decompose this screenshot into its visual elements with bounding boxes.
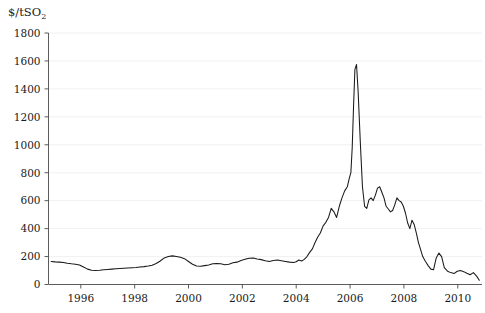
x-tick-label: 2006 — [337, 292, 364, 304]
y-tick-label: 600 — [20, 194, 40, 206]
y-axis-title-group: $/tSO2 — [8, 5, 46, 21]
y-tick-label: 0 — [34, 278, 41, 290]
y-tick-label: 1400 — [14, 83, 41, 95]
chart-canvas: $/tSO2 020040060080010001200140016001800… — [0, 0, 485, 313]
x-tick-labels: 19961998200020022004200620082010 — [67, 292, 471, 304]
y-axis-title-base: $/tSO — [8, 5, 41, 19]
y-tick-label: 200 — [20, 250, 40, 262]
y-tick-labels: 020040060080010001200140016001800 — [14, 27, 41, 291]
y-tick-label: 1600 — [14, 55, 41, 67]
x-tick-label: 2004 — [283, 292, 310, 304]
x-tick-label: 2000 — [175, 292, 202, 304]
y-tick-marks — [45, 33, 49, 285]
y-tick-label: 400 — [20, 222, 40, 234]
x-tick-marks — [81, 285, 458, 289]
y-tick-label: 1800 — [14, 27, 41, 39]
x-tick-label: 2010 — [444, 292, 471, 304]
y-tick-label: 800 — [20, 167, 40, 179]
x-tick-label: 1998 — [121, 292, 148, 304]
y-tick-label: 1200 — [14, 111, 41, 123]
x-tick-label: 1996 — [67, 292, 94, 304]
x-tick-label: 2008 — [391, 292, 418, 304]
gridlines — [49, 33, 483, 257]
y-tick-label: 1000 — [14, 139, 41, 151]
x-tick-label: 2002 — [229, 292, 256, 304]
y-axis-title-subscript: 2 — [41, 12, 46, 21]
y-axis-title: $/tSO2 — [8, 5, 46, 21]
